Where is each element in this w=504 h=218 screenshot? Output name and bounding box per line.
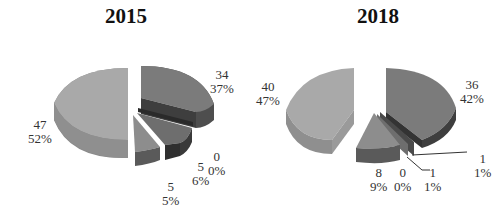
- label-5-6pct: 5 6%: [192, 160, 209, 188]
- label-40: 40 47%: [256, 80, 280, 108]
- slice-47: [54, 68, 128, 158]
- pie-3d-2015: [0, 0, 252, 218]
- label-1a: 1 1%: [474, 152, 491, 180]
- label-47: 47 52%: [28, 118, 52, 146]
- leader-line: [412, 152, 467, 155]
- label-34: 34 37%: [210, 68, 234, 96]
- label-0: 0 0%: [394, 166, 411, 194]
- chart-2015: 2015 47 52% 34: [0, 0, 252, 218]
- slice-40: [286, 68, 354, 154]
- label-36: 36 42%: [460, 78, 484, 106]
- chart-2018: 2018 40 47% 36 42%: [252, 0, 504, 218]
- label-1b: 1 1%: [424, 166, 441, 194]
- label-0: 0 0%: [208, 150, 225, 178]
- label-5-5pct: 5 5%: [162, 180, 179, 208]
- label-8: 8 9%: [370, 166, 387, 194]
